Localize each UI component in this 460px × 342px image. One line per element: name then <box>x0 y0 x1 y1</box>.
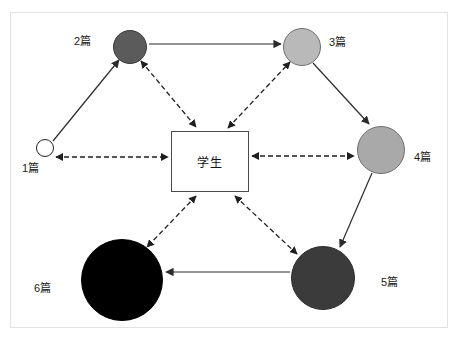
node-label-n6: 6篇 <box>34 283 51 294</box>
diagram-canvas: 1篇2篇3篇4篇5篇6篇 学生 <box>0 0 460 342</box>
node-label-n4: 4篇 <box>414 152 431 163</box>
node-label-n1: 1篇 <box>22 163 39 174</box>
edge-4-to-5 <box>340 173 372 247</box>
node-circle-n4[interactable] <box>357 126 405 174</box>
node-label-n3: 3篇 <box>329 37 346 48</box>
edge-5-center <box>235 196 297 254</box>
node-circle-n2[interactable] <box>113 30 147 64</box>
center-node-label: 学生 <box>197 153 223 170</box>
center-node-student[interactable]: 学生 <box>171 131 249 192</box>
node-label-n2: 2篇 <box>74 36 91 47</box>
node-circle-n5[interactable] <box>291 246 355 310</box>
edge-3-center <box>228 62 290 128</box>
node-label-n5: 5篇 <box>381 277 398 288</box>
edge-6-center <box>147 196 196 247</box>
edge-1-to-2 <box>53 60 119 141</box>
node-circle-n3[interactable] <box>283 28 321 66</box>
edge-3-to-4 <box>313 63 369 124</box>
edge-2-center <box>141 61 196 127</box>
node-circle-n6[interactable] <box>81 239 163 321</box>
node-circle-n1[interactable] <box>36 139 54 157</box>
